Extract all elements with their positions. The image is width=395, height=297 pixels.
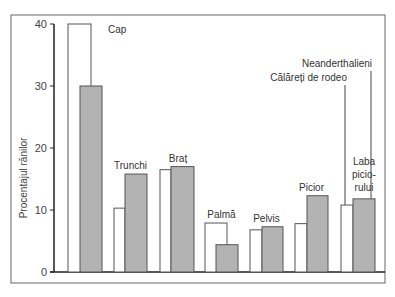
- category-label: Pelvis: [253, 213, 280, 224]
- bar-rodeo: [250, 230, 262, 272]
- legend-neanderthal: Neanderthalieni: [302, 58, 372, 69]
- bar-neanderthal: [262, 227, 283, 272]
- y-tick-label: 30: [35, 80, 47, 92]
- bar-neanderthal: [171, 167, 194, 272]
- category-label: Laba: [353, 156, 376, 167]
- bar-rodeo: [114, 208, 125, 272]
- bar-rodeo: [341, 205, 353, 272]
- bar-chart: 010203040 CapTrunchiBrațPalmăPelvisPicio…: [0, 0, 395, 297]
- category-labels: CapTrunchiBrațPalmăPelvisPiciorLabapicio…: [108, 24, 376, 224]
- legend-rodeo: Călăreți de rodeo: [270, 72, 347, 83]
- bar-rodeo: [295, 224, 307, 272]
- y-tick-label: 20: [35, 142, 47, 154]
- bar-neanderthal: [125, 174, 147, 272]
- category-label: Palmă: [207, 209, 236, 220]
- bar-neanderthal: [353, 199, 375, 272]
- y-axis-title: Procentajul rănilor: [18, 137, 29, 218]
- chart-frame: [11, 15, 385, 283]
- category-label: picio-: [352, 169, 376, 180]
- bar-neanderthal: [80, 86, 102, 272]
- bar-rodeo: [160, 170, 171, 272]
- category-label: Cap: [108, 24, 127, 35]
- category-label: Trunchi: [114, 160, 147, 171]
- y-tick-label: 10: [35, 204, 47, 216]
- bar-neanderthal: [307, 196, 328, 272]
- y-tick-label: 40: [35, 18, 47, 30]
- category-label: Picior: [299, 182, 325, 193]
- y-tick-label: 0: [41, 266, 47, 278]
- bar-neanderthal: [216, 245, 238, 272]
- category-label: Braț: [169, 153, 188, 164]
